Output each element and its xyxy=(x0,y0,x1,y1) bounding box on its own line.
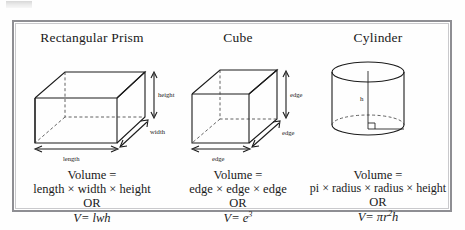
length-dimension-drawing: length xyxy=(17,144,167,166)
scan-artifact xyxy=(6,1,32,8)
label-edge-bottom: edge xyxy=(212,155,225,162)
formula-cylinder: Volume = pi × radius × radius × height O… xyxy=(304,168,452,224)
formula-line-volume: Volume = xyxy=(304,168,452,182)
formula-line-symbolic: V= πr2h xyxy=(304,210,452,224)
formula-symbolic-base: V= e xyxy=(224,211,249,225)
formula-line-volume: Volume = xyxy=(12,168,172,182)
formula-line-or: OR xyxy=(12,196,172,210)
formula-line-symbolic: V= e3 xyxy=(172,211,304,225)
label-edge-depth: edge xyxy=(282,129,295,136)
figure-length-dimension: length xyxy=(12,144,172,166)
panels-container: Rectangular Prism xyxy=(12,20,452,212)
formula-line-or: OR xyxy=(172,196,304,210)
formula-line-volume: Volume = xyxy=(172,168,304,182)
formula-line-symbolic: V= lwh xyxy=(12,211,172,225)
panel-title-cube: Cube xyxy=(172,30,304,46)
formula-line-words: edge × edge × edge xyxy=(172,182,304,196)
label-width: width xyxy=(150,128,166,135)
panel-title-rectangular-prism: Rectangular Prism xyxy=(12,30,172,46)
panel-title-cylinder: Cylinder xyxy=(304,30,452,46)
formula-cube: Volume = edge × edge × edge OR V= e3 xyxy=(172,168,304,225)
formula-rectangular-prism: Volume = length × width × height OR V= l… xyxy=(12,168,172,225)
formula-line-words: pi × radius × radius × height xyxy=(304,182,452,195)
figure-cube: edge edge xyxy=(172,50,304,142)
formula-symbolic-suffix: h xyxy=(392,210,398,224)
figure-cylinder: h xyxy=(304,50,452,150)
page-canvas: Rectangular Prism xyxy=(0,0,465,230)
figure-rectangular-prism: height width xyxy=(12,50,172,142)
panel-rectangular-prism: Rectangular Prism xyxy=(12,20,172,212)
panel-cube: Cube edge xyxy=(172,20,304,212)
cylinder-drawing: h xyxy=(308,50,448,150)
label-edge-vertical: edge xyxy=(290,91,303,98)
label-height-h: h xyxy=(360,95,364,103)
formula-line-words: length × width × height xyxy=(12,182,172,196)
figure-edge-dimension: edge xyxy=(172,144,304,166)
panel-cylinder: Cylinder xyxy=(304,20,452,212)
rectangular-prism-drawing: height width xyxy=(17,50,167,142)
cube-drawing: edge edge xyxy=(176,50,301,142)
formula-symbolic-prefix: V= πr xyxy=(358,210,388,224)
edge-dimension-drawing: edge xyxy=(176,144,301,166)
label-length: length xyxy=(63,155,80,162)
formula-symbolic-exponent: 3 xyxy=(248,210,252,219)
formula-line-or: OR xyxy=(304,195,452,209)
